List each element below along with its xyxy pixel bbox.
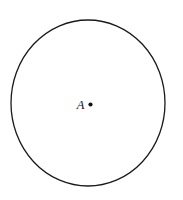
center-point-label: A [76, 98, 85, 112]
diagram-background [0, 0, 183, 200]
figure-canvas: A [0, 0, 183, 200]
center-point-dot [88, 102, 92, 106]
circle-diagram: A [0, 0, 183, 200]
